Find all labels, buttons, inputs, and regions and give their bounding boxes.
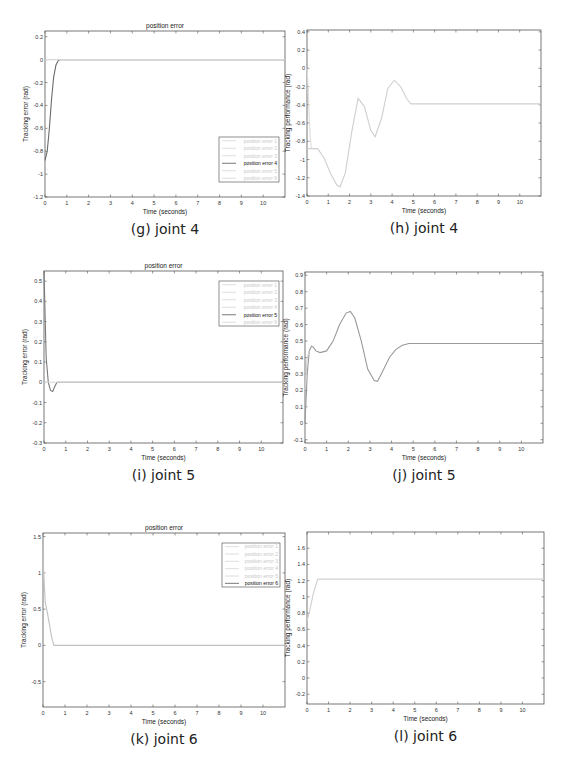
x-tick-label: 5 [151,710,154,716]
x-tick-label: 9 [499,707,502,713]
y-tick-label: -0.1 [294,437,303,443]
x-tick-label: 3 [368,446,371,452]
x-tick-label: 4 [129,710,132,716]
y-tick-label: 0.8 [297,610,305,616]
y-tick-label: 1.5 [33,534,41,540]
x-tick-label: 8 [478,707,481,713]
x-tick-label: 2 [86,446,89,452]
legend-entry: position error 2 [245,551,279,557]
x-tick-label: 4 [390,446,393,452]
x-tick-label: 0 [43,200,46,206]
figure-caption-j: (j) joint 5 [324,467,524,483]
x-axis-label: Time (seconds) [141,454,186,462]
y-tick-label: 0 [38,642,41,648]
x-tick-label: 8 [217,710,220,716]
y-axis-label: Tracking performance (rad) [282,318,290,397]
y-tick-label: -0.3 [33,440,42,446]
y-tick-label: -1.4 [296,193,305,199]
x-tick-label: 5 [412,446,415,452]
chart-l: 0123456789101.61.41.210.80.60.40.20-0.2T… [284,532,544,723]
legend-entry: position error 1 [245,543,279,549]
x-tick-label: 7 [195,710,198,716]
y-tick-label: -1 [300,157,305,163]
x-tick-label: 0 [41,710,44,716]
legend-entry: position error 6 [244,319,278,325]
x-tick-label: 9 [497,199,500,205]
legend-entry: position error 3 [244,297,278,303]
y-tick-label: 1 [38,570,41,576]
x-tick-label: 8 [218,200,221,206]
legend-entry: position error 2 [244,145,278,151]
x-axis-label: Time (seconds) [143,208,188,216]
x-tick-label: 6 [433,446,436,452]
x-tick-label: 4 [129,446,132,452]
y-tick-label: 1.2 [297,578,305,584]
legend-entry: position error 2 [244,289,278,295]
x-tick-label: 3 [108,446,111,452]
x-tick-label: 10 [260,200,266,206]
legend: position error 1position error 2position… [219,281,279,326]
chart-g: 0123456789100.20-0.2-0.4-0.6-0.8-1-1.2po… [22,22,285,216]
figure-caption-g: (g) joint 4 [65,221,265,237]
y-tick-label: 0.9 [295,272,303,278]
x-tick-label: 1 [63,710,66,716]
y-axis-label: Tracking error (rad) [20,592,28,648]
y-tick-label: 0.5 [295,338,303,344]
y-tick-label: 0 [302,65,305,71]
chart-j: 0123456789100.90.80.70.60.50.40.30.20.10… [282,272,543,462]
legend-entry: position error 1 [244,138,278,144]
legend-entry: position error 4 [244,304,278,310]
chart-title: position error [146,22,185,30]
y-tick-label: 0.4 [295,355,303,361]
y-tick-label: 0 [300,420,303,426]
plot-area [307,532,544,704]
y-tick-label: 0.5 [33,606,41,612]
x-tick-label: 3 [369,199,372,205]
y-tick-label: 0.2 [297,47,305,53]
legend: position error 1position error 2position… [219,137,279,182]
x-tick-label: 9 [239,710,242,716]
figure-caption-h: (h) joint 4 [324,220,524,236]
x-tick-label: 6 [174,200,177,206]
y-tick-label: -0.5 [32,679,41,685]
y-axis-label: Tracking error (rad) [21,329,29,385]
y-tick-label: 0.1 [34,359,42,365]
legend-entry: position error 6 [244,175,278,181]
chart-i: 0123456789100.50.40.30.20.10-0.1-0.2-0.3… [21,262,283,462]
x-tick-label: 3 [107,710,110,716]
y-tick-label: -1.2 [34,194,43,200]
legend-entry: position error 4 [245,565,279,571]
y-tick-label: -1.2 [296,175,305,181]
legend-entry: position error 3 [244,153,278,159]
y-tick-label: 0.4 [297,29,305,35]
y-tick-label: 0.2 [35,34,43,40]
legend-entry: position error 5 [244,312,278,318]
x-tick-label: 7 [454,199,457,205]
x-tick-label: 8 [216,446,219,452]
x-tick-label: 7 [455,446,458,452]
y-tick-label: -1 [38,171,43,177]
x-tick-label: 6 [435,707,438,713]
y-tick-label: -0.6 [34,125,43,131]
y-axis-label: Tracking error (rad) [22,86,30,142]
x-tick-label: 0 [305,199,308,205]
y-tick-label: 1 [302,594,305,600]
x-tick-label: 10 [518,446,524,452]
legend-entry: position error 5 [244,168,278,174]
x-axis-label: Time (seconds) [402,207,447,215]
x-tick-label: 4 [392,707,395,713]
y-tick-label: 0.4 [34,298,42,304]
x-axis-label: Time (seconds) [142,718,187,726]
y-tick-label: 0.6 [297,626,305,632]
y-tick-label: 1.4 [297,561,305,567]
y-tick-label: 0.8 [295,289,303,295]
x-tick-label: 2 [347,446,350,452]
y-tick-label: 0.4 [297,643,305,649]
y-tick-label: 0.2 [297,659,305,665]
x-tick-label: 0 [42,446,45,452]
x-tick-label: 0 [303,446,306,452]
x-tick-label: 1 [65,200,68,206]
x-tick-label: 6 [173,710,176,716]
figure-caption-l: (l) joint 6 [326,728,526,744]
y-tick-label: -0.2 [34,80,43,86]
